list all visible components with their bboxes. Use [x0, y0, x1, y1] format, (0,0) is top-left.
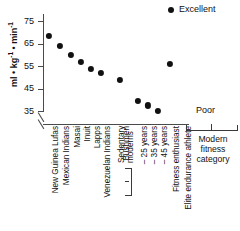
data-point — [167, 61, 173, 67]
x-axis-category-label: Inuit — [84, 126, 92, 141]
data-point — [145, 102, 151, 108]
data-point — [117, 76, 123, 82]
modern-fitness-category-line: Modern — [190, 134, 236, 144]
data-point — [78, 58, 84, 64]
x-axis-category-label: Masai — [74, 126, 82, 148]
modern-fitness-category-line: category — [190, 154, 236, 164]
x-axis-category-label: Lapps — [94, 126, 102, 148]
sedentary-brace-icon — [125, 168, 133, 196]
y-axis-tick-label: 75 — [0, 17, 43, 26]
y-axis-title-sup1: -1 — [7, 52, 14, 58]
y-axis-tick-label: 55 — [0, 62, 43, 71]
x-axis-category-label: – 35 years — [151, 126, 159, 164]
data-point — [97, 70, 103, 76]
x-axis-category-label: New Guinea Lufas — [52, 126, 60, 193]
modern-fitness-brace-icon — [186, 124, 238, 132]
y-axis-tick-label: 65 — [0, 39, 43, 48]
chart-container: Excellent ml • kg-1 • min-1 3545556575 N… — [0, 0, 240, 231]
data-point — [46, 33, 52, 39]
x-axis-category-label: Venezuelan Indians — [104, 126, 112, 197]
y-axis-tick-label: 45 — [0, 84, 43, 93]
x-axis-category-label: – 25 years — [141, 126, 149, 164]
legend-label: Excellent — [179, 5, 216, 14]
x-axis-category-label: Mexican Indians — [63, 126, 71, 185]
poor-annotation-label: Poor — [196, 106, 215, 115]
data-point — [155, 107, 161, 113]
data-point — [67, 52, 73, 58]
x-axis-category-label: – 45 years — [161, 126, 169, 164]
y-axis-line — [43, 14, 44, 112]
data-point — [57, 43, 63, 49]
legend-marker-icon — [168, 7, 174, 13]
modern-fitness-category-line: fitness — [190, 144, 236, 154]
modern-fitness-category-label: Modernfitnesscategory — [190, 134, 236, 164]
data-point — [88, 66, 94, 72]
y-axis-tick-label: 35 — [0, 107, 43, 116]
sedentary-group-line: moderns — [127, 131, 136, 163]
data-point — [135, 98, 141, 104]
x-axis-category-label: Fitness enthusiast — [173, 126, 181, 192]
chart-legend: Excellent — [168, 5, 216, 14]
